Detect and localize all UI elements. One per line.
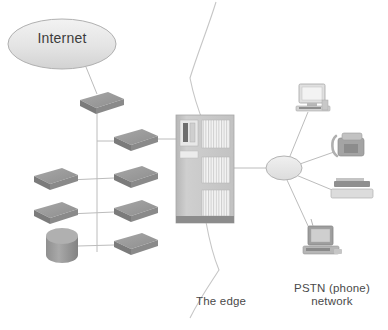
link-hub-workstation [287, 180, 309, 228]
link-hub-telephone [297, 152, 334, 165]
pstn-network-label: PSTN (phone) network [282, 282, 382, 308]
router-top [80, 92, 124, 114]
desk-telephone [332, 133, 364, 156]
edge-rack [176, 115, 234, 223]
router-bottom-right [114, 233, 158, 255]
router-upper-right [114, 129, 158, 151]
server-cylinder [46, 228, 78, 263]
link-hub-computer [288, 112, 308, 161]
network-diagram-canvas [0, 0, 388, 330]
router-low-left [34, 202, 78, 224]
router-low-right [114, 200, 158, 222]
link-internet-router [86, 67, 97, 94]
router-mid-right [114, 166, 158, 188]
edge-label: The edge [196, 295, 276, 308]
router-mid-left [34, 168, 78, 190]
internet-label: Internet [0, 32, 124, 45]
link-hub-printer [296, 175, 337, 192]
desktop-computer [296, 84, 330, 111]
edge-boundary-top [190, 2, 216, 124]
fax-printer [331, 178, 373, 198]
link-cylinder-row [78, 245, 114, 246]
pstn-hub [266, 156, 302, 180]
workstation [303, 219, 342, 254]
